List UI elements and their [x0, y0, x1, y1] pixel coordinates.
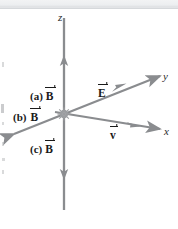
vector-label-v: v: [110, 130, 116, 142]
vector-label-e: E: [98, 88, 106, 100]
vector-label-e-symbol: E: [98, 88, 106, 100]
option-b-b-symbol: B: [30, 112, 38, 124]
option-a-symbol-wrap: B: [46, 90, 54, 102]
option-c-b-symbol: B: [45, 144, 53, 156]
axis-label-z: z: [58, 12, 62, 23]
vector-label-v-symbol: v: [110, 130, 116, 142]
option-b-symbol-wrap: B: [30, 111, 38, 123]
vector-diagram-figure: z y x E v (a)B (b)B (c)B: [0, 0, 178, 229]
option-label-b: (b)B: [13, 108, 38, 124]
axis-line-x: [55, 112, 160, 129]
option-label-a: (a)B: [30, 87, 54, 103]
option-c-symbol-wrap: B: [45, 143, 53, 155]
axis-label-x: x: [164, 126, 169, 137]
origin-marker: [58, 108, 71, 121]
option-label-c: (c)B: [30, 140, 53, 156]
option-c-key: (c): [30, 143, 42, 155]
option-a-key: (a): [30, 90, 43, 102]
option-a-b-symbol: B: [46, 91, 54, 103]
option-b-key: (b): [13, 111, 26, 123]
axis-label-y: y: [163, 71, 168, 82]
